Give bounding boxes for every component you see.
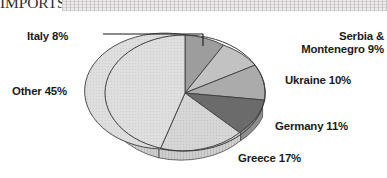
pie-label-germany: Germany 11% [275,120,348,133]
pie-label-greece: Greece 17% [238,152,301,165]
pie-label-ukraine: Ukraine 10% [285,74,351,87]
chart-figure: IMPORTS [0,0,387,178]
pie-label-other: Other 45% [12,85,67,98]
pie-label-serbia-montenegro: Serbia & Montenegro 9% [246,30,384,56]
pie-label-italy: Italy 8% [27,30,68,43]
pie-top-face [85,33,266,151]
pie-label-serbia-line2: Montenegro 9% [246,43,384,56]
pie-label-serbia-line1: Serbia & [339,30,384,42]
